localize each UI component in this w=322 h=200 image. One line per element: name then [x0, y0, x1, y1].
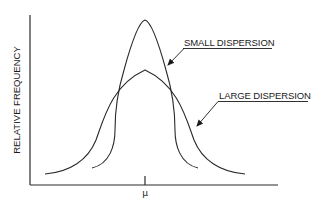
mu-label: μ: [142, 188, 148, 198]
large-dispersion-label: LARGE DISPERSION: [219, 90, 311, 101]
small-dispersion-arrow-icon: [168, 49, 184, 66]
large-dispersion-curve: [45, 70, 245, 174]
large-dispersion-arrow-icon: [197, 102, 218, 127]
small-dispersion-curve: [92, 20, 198, 168]
y-axis-label: RELATIVE FREQUENCY: [11, 46, 22, 154]
dispersion-diagram: RELATIVE FREQUENCY μ SMALL DISPERSION LA…: [0, 0, 322, 200]
small-dispersion-label: SMALL DISPERSION: [184, 37, 275, 48]
